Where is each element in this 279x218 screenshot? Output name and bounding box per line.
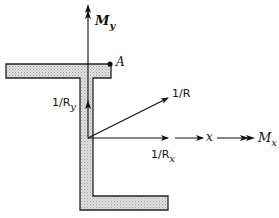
point-a-marker: [107, 61, 112, 66]
inv-ry-label: 1/Ry: [52, 96, 76, 112]
x-axis-label: x: [206, 130, 213, 144]
z-section: [6, 64, 168, 210]
my-label: My: [94, 13, 116, 31]
inv-rx-label: 1/Rx: [151, 148, 175, 164]
inv-r-vector: [88, 98, 168, 138]
diagram-canvas: A My 1/Ry 1/R 1/Rx x Mx: [0, 0, 279, 218]
mx-label: Mx: [257, 130, 277, 148]
point-a-label: A: [115, 55, 125, 69]
inv-r-label: 1/R: [172, 87, 191, 100]
